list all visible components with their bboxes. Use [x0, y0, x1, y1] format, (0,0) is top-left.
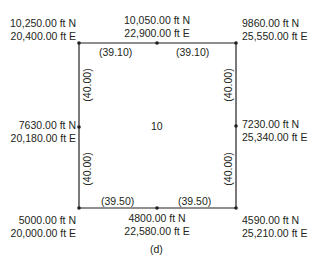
- point-bottom-mid: [155, 206, 159, 210]
- coord-label-top-mid: 10,050.00 ft N 22,900.00 ft E: [107, 14, 207, 40]
- easting: 25,340.00 ft E: [242, 131, 307, 144]
- distance-label-top-right: (39.10): [176, 46, 209, 58]
- distance-label-right-lower: (40.00): [222, 149, 234, 189]
- corner-point-top-right: [234, 41, 238, 45]
- northing: 4590.00 ft N: [242, 214, 307, 227]
- northing: 4800.00 ft N: [107, 212, 207, 225]
- parcel-number-label: 10: [151, 120, 163, 132]
- figure-caption: (d): [150, 243, 163, 255]
- easting: 20,000.00 ft E: [11, 227, 76, 240]
- northing: 7230.00 ft N: [242, 118, 307, 131]
- point-top-mid: [155, 41, 159, 45]
- point-mid-left: [77, 125, 81, 129]
- survey-plot-diagram: 10,250.00 ft N 20,400.00 ft E 10,050.00 …: [0, 0, 321, 267]
- point-mid-right: [234, 124, 238, 128]
- coord-label-bottom-right: 4590.00 ft N 25,210.00 ft E: [242, 214, 307, 240]
- easting: 25,550.00 ft E: [242, 30, 307, 43]
- distance-label-bottom-left: (39.50): [101, 195, 134, 207]
- corner-point-bottom-left: [77, 206, 81, 210]
- coord-label-mid-right: 7230.00 ft N 25,340.00 ft E: [242, 118, 307, 144]
- northing: 10,050.00 ft N: [107, 14, 207, 27]
- distance-label-top-left: (39.10): [99, 46, 132, 58]
- distance-label-left-lower: (40.00): [81, 149, 93, 189]
- distance-label-left-upper: (40.00): [81, 65, 93, 105]
- corner-point-top-left: [77, 41, 81, 45]
- easting: 20,180.00 ft E: [11, 132, 76, 145]
- easting: 20,400.00 ft E: [10, 30, 76, 43]
- corner-point-bottom-right: [234, 206, 238, 210]
- coord-label-top-left: 10,250.00 ft N 20,400.00 ft E: [10, 17, 76, 43]
- northing: 10,250.00 ft N: [10, 17, 76, 30]
- easting: 25,210.00 ft E: [242, 227, 307, 240]
- northing: 9860.00 ft N: [242, 17, 307, 30]
- easting: 22,580.00 ft E: [107, 225, 207, 238]
- coord-label-bottom-left: 5000.00 ft N 20,000.00 ft E: [11, 214, 76, 240]
- coord-label-mid-left: 7630.00 ft N 20,180.00 ft E: [11, 119, 76, 145]
- coord-label-bottom-mid: 4800.00 ft N 22,580.00 ft E: [107, 212, 207, 238]
- northing: 5000.00 ft N: [11, 214, 76, 227]
- distance-label-right-upper: (40.00): [222, 65, 234, 105]
- distance-label-bottom-right: (39.50): [178, 195, 211, 207]
- coord-label-top-right: 9860.00 ft N 25,550.00 ft E: [242, 17, 307, 43]
- northing: 7630.00 ft N: [11, 119, 76, 132]
- easting: 22,900.00 ft E: [107, 27, 207, 40]
